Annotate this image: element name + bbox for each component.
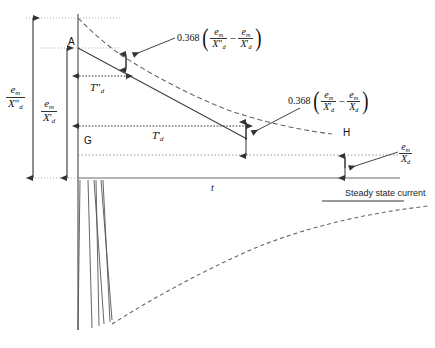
lower-envelope-dashed (112, 206, 428, 324)
frac-numerator: em (41, 98, 57, 111)
annotation-term-1: em X"d (210, 27, 227, 50)
point-A-label: A (68, 37, 75, 47)
oscillation-spikes (78, 180, 112, 330)
transient-decay-annotation: 0.368 ( em X'd – em Xd ) (288, 88, 370, 114)
frac-denominator: X'd (41, 111, 57, 125)
subtransient-decay-annotation: 0.368 ( em X"d – em X'd ) (177, 25, 263, 51)
annotation-term-2: em Xd (347, 90, 360, 113)
annotation-operator: – (337, 96, 346, 106)
point-H-label: H (343, 128, 350, 138)
diagram-svg (0, 0, 435, 348)
leader-annotation-1 (133, 38, 175, 55)
annotation-term-1: em X'd (321, 90, 336, 113)
label-transient-time-constant: T'd (152, 130, 164, 143)
time-axis-label: t (211, 183, 214, 193)
frac-denominator: X"d (6, 97, 25, 111)
paren-open: ( (202, 25, 208, 51)
annotation-coefficient: 0.368 (177, 33, 200, 43)
label-transient-scale: em X'd (41, 98, 57, 124)
paren-close: ) (256, 25, 262, 51)
label-subtransient-time-constant: T"d (90, 82, 104, 95)
annotation-operator: – (228, 33, 237, 43)
point-G-label: G (84, 136, 92, 146)
annotation-coefficient: 0.368 (288, 96, 311, 106)
frac-numerator: em (6, 84, 25, 97)
paren-open: ( (313, 88, 319, 114)
label-steady-state-scale: em Xd (399, 142, 412, 165)
figure-canvas: em X"d em X'd A G H T"d T'd 0.368 ( em X… (0, 0, 435, 348)
steady-state-current-label: Steady state current (345, 189, 426, 198)
annotation-term-2: em X'd (238, 27, 253, 50)
paren-close: ) (363, 88, 369, 114)
label-subtransient-scale: em X"d (6, 84, 25, 110)
leader-steady-label (349, 152, 398, 168)
